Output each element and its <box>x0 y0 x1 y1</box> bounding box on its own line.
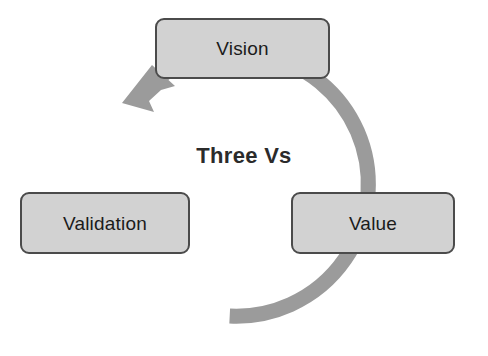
node-vision[interactable]: Vision <box>155 18 330 79</box>
node-validation[interactable]: Validation <box>20 192 190 254</box>
node-vision-label: Vision <box>216 39 269 58</box>
node-value[interactable]: Value <box>291 192 455 254</box>
node-value-label: Value <box>349 214 397 233</box>
three-vs-cycle-diagram: Three Vs Vision Validation Value <box>0 0 488 356</box>
cycle-arc-path <box>136 52 369 316</box>
node-validation-label: Validation <box>63 214 147 233</box>
diagram-center-label: Three Vs <box>0 143 488 169</box>
